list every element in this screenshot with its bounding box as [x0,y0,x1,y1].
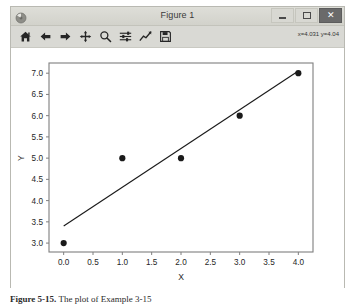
data-point [237,113,243,119]
window-controls: ✕ [271,8,342,23]
y-tick-label: 4.0 [32,197,44,206]
x-tick-label: 0.0 [58,258,70,267]
edit-curves-icon[interactable] [137,28,154,45]
x-tick-label: 3.0 [234,258,246,267]
caption-prefix: Figure 5-15. [10,294,56,304]
data-point [119,155,125,161]
navigation-toolbar: x=4.031 y=4.04 [11,26,344,48]
y-tick-label: 6.5 [32,90,44,99]
x-axis-label: X [178,272,184,282]
screenshot-root: Figure 1 ✕ [0,0,355,305]
home-icon[interactable] [17,28,34,45]
y-tick-label: 6.0 [32,112,44,121]
figure-caption: Figure 5-15. The plot of Example 3-15 [10,294,340,305]
pan-move-icon[interactable] [77,28,94,45]
zoom-magnifier-icon[interactable] [97,28,114,45]
x-tick-label: 4.0 [293,258,305,267]
x-tick-label: 3.5 [263,258,275,267]
y-tick-label: 7.0 [32,69,44,78]
figure-window: Figure 1 ✕ [10,6,345,288]
x-tick-label: 1.5 [146,258,158,267]
configure-subplots-icon[interactable] [117,28,134,45]
minimize-button[interactable] [271,8,294,23]
data-point [178,155,184,161]
caption-text: The plot of Example 3-15 [56,294,151,304]
x-tick-label: 0.5 [87,258,99,267]
x-tick-label: 1.0 [117,258,129,267]
figure-canvas[interactable]: 0.00.51.01.52.02.53.03.54.0 3.03.54.04.5… [11,48,344,290]
cursor-coordinates: x=4.031 y=4.04 [298,31,339,37]
toolbar-buttons [17,28,174,45]
y-tick-label: 4.5 [32,175,44,184]
data-point [295,70,301,76]
x-tick-label: 2.0 [175,258,187,267]
y-tick-label: 5.0 [32,154,44,163]
window-titlebar[interactable]: Figure 1 ✕ [11,7,344,26]
close-button[interactable]: ✕ [319,8,342,23]
y-tick-label: 3.0 [32,239,44,248]
y-tick-label: 5.5 [32,133,44,142]
x-tick-label: 2.5 [205,258,217,267]
forward-arrow-icon[interactable] [57,28,74,45]
scatter-plot: 0.00.51.01.52.02.53.03.54.0 3.03.54.04.5… [11,49,344,290]
data-point [61,240,67,246]
maximize-button[interactable] [295,8,318,23]
save-floppy-icon[interactable] [157,28,174,45]
y-tick-label: 3.5 [32,218,44,227]
back-arrow-icon[interactable] [37,28,54,45]
y-axis-label: Y [16,155,26,161]
